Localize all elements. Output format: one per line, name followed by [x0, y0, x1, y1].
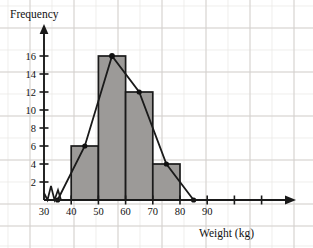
y-tick-label-4: 4 — [31, 159, 37, 170]
y-tick-label-10: 10 — [26, 105, 37, 116]
y-tick-label-8: 8 — [31, 123, 36, 134]
x-tick-label-80: 80 — [175, 206, 186, 217]
x-tick-label-70: 70 — [148, 206, 159, 217]
y-axis-tick-labels: 2 4 6 8 10 12 14 16 — [26, 51, 37, 188]
y-tick-label-16: 16 — [26, 51, 37, 62]
x-tick-label-60: 60 — [120, 206, 131, 217]
y-tick-label-12: 12 — [26, 87, 37, 98]
frequency-histogram-chart: 30 40 50 60 70 80 90 2 4 6 8 10 12 14 16… — [0, 0, 313, 248]
polygon-point-45-6 — [82, 143, 87, 148]
y-axis-arrow-icon — [40, 24, 49, 34]
polygon-point-55-16 — [109, 53, 115, 59]
y-tick-label-2: 2 — [31, 177, 36, 188]
bar-60-70 — [126, 92, 153, 200]
polygon-point-75-4 — [164, 161, 169, 166]
y-axis-title: Frequency — [10, 8, 59, 21]
x-tick-label-50: 50 — [93, 206, 104, 217]
bar-50-60 — [98, 56, 125, 200]
x-tick-label-40: 40 — [66, 206, 77, 217]
bar-40-50 — [71, 146, 98, 200]
x-axis-tick-labels: 30 40 50 60 70 80 90 — [39, 206, 213, 217]
polygon-point-65-12 — [137, 89, 142, 94]
y-axis — [40, 24, 49, 200]
x-tick-label-30: 30 — [39, 206, 50, 217]
bar-70-80 — [153, 164, 180, 200]
y-tick-label-6: 6 — [31, 141, 36, 152]
y-tick-label-14: 14 — [26, 69, 37, 80]
histogram-bars — [71, 56, 180, 200]
x-tick-label-90: 90 — [202, 206, 213, 217]
x-axis-title: Weight (kg) — [199, 227, 254, 240]
chart-canvas: 30 40 50 60 70 80 90 2 4 6 8 10 12 14 16… — [0, 0, 313, 248]
